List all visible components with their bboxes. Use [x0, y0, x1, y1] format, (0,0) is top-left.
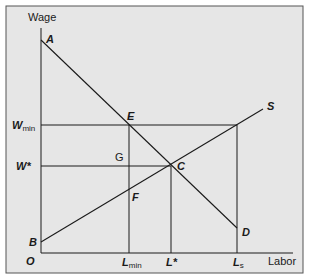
supply-curve-label: S — [267, 100, 275, 112]
point-b-label: B — [29, 236, 37, 248]
equilibrium-wage-label: W* — [16, 160, 31, 172]
x-axis-label: Labor — [268, 255, 296, 267]
point-g-label: G — [115, 151, 124, 163]
origin-label: O — [26, 255, 35, 267]
y-axis-label: Wage — [28, 11, 56, 23]
diagram-frame — [6, 6, 303, 273]
point-a-label: A — [45, 33, 54, 45]
point-c-label: C — [177, 160, 186, 172]
point-d-label: D — [242, 226, 250, 238]
labor-market-diagram: Wage Labor O Wmin W* Lmin L* Ls A B C D … — [0, 0, 310, 280]
point-f-label: F — [132, 191, 139, 203]
point-e-label: E — [127, 110, 135, 122]
equilibrium-labor-label: L* — [166, 256, 178, 268]
